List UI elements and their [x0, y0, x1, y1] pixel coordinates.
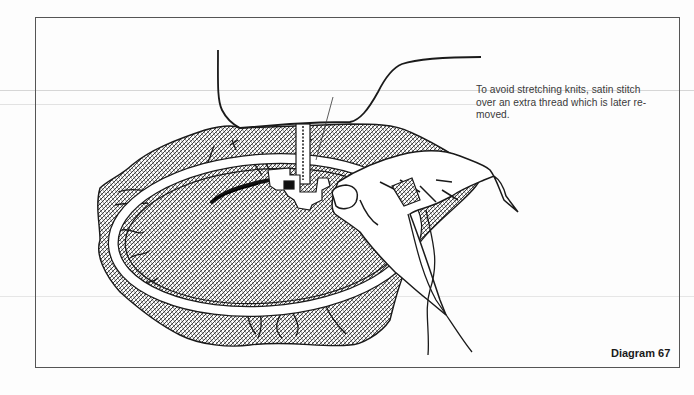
sewing-machine-outline	[218, 50, 481, 128]
caption-line: over an extra thread which is later re-	[476, 97, 676, 110]
caption-line: To avoid stretching knits, satin stitch	[476, 84, 676, 97]
caption-line: moved.	[476, 109, 676, 122]
figure-label: Diagram 67	[611, 347, 670, 359]
document-page: To avoid stretching knits, satin stitch …	[0, 0, 694, 395]
figure-caption: To avoid stretching knits, satin stitch …	[476, 84, 676, 122]
embroidery-illustration	[0, 0, 694, 395]
